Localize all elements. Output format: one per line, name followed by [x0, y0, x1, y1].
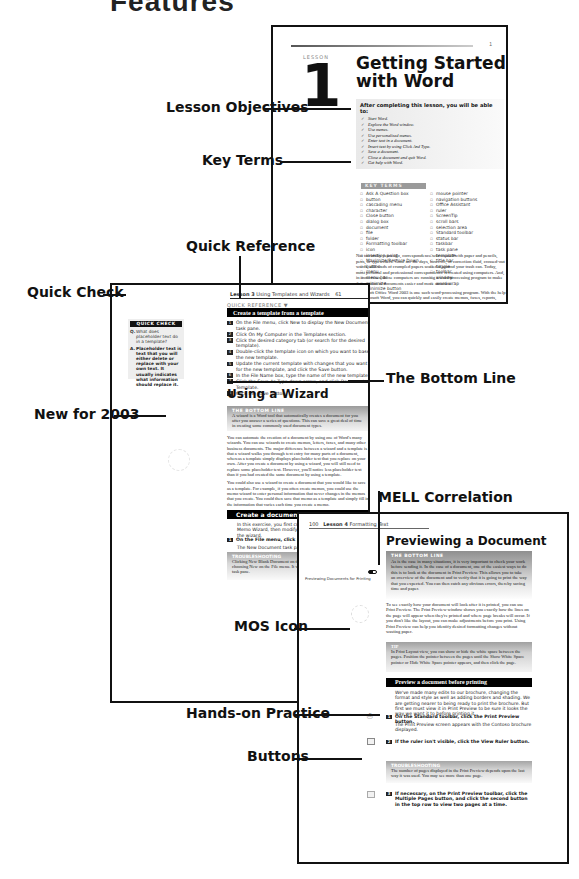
practice-intro: We've made many edits to our brochure, c… — [395, 690, 532, 716]
step-number-badge: 3 — [227, 338, 233, 343]
header-rule — [291, 45, 473, 47]
new-for-2003-icon — [168, 449, 190, 471]
quick-reference-step: 2Click On My Computer in the Templates s… — [227, 332, 370, 338]
callout-mos-icon: MOS Icon — [234, 618, 308, 634]
quick-reference-step: 4Double-click the template icon on which… — [227, 349, 370, 360]
header-rule — [230, 298, 368, 299]
view-ruler-button-icon — [367, 738, 375, 745]
sample-page-previewing-document: 100 Lesson 4 Formatting Text Previewing … — [297, 512, 569, 864]
practice-step-result: The Print Preview screen appears with th… — [395, 722, 532, 733]
leader-line — [264, 108, 351, 110]
leader-line — [280, 161, 351, 163]
bottom-line-text: As is the case in many situations, it is… — [391, 559, 527, 591]
step-number-badge: 2 — [386, 740, 392, 745]
leader-line — [378, 491, 380, 565]
callout-mell-correlation: MELL Correlation — [378, 489, 513, 505]
bottom-line-text: A wizard is a Word tool that automatical… — [232, 413, 365, 429]
body-paragraph: Not too many years ago, correspondence w… — [356, 253, 506, 287]
callout-key-terms: Key Terms — [202, 152, 283, 168]
running-head-lesson: Lesson 4 — [323, 521, 348, 527]
step-number-badge: 1 — [227, 538, 233, 543]
troubleshooting-box: TROUBLESHOOTING The number of pages disp… — [386, 761, 532, 783]
mell-correlation-icon — [368, 570, 377, 574]
callout-hands-on-practice: Hands-on Practice — [186, 705, 330, 721]
quick-reference-title: Create a template from a template — [227, 308, 370, 317]
leader-line — [103, 294, 126, 296]
quick-check-question: Q.What does placeholder text do in a tem… — [130, 329, 182, 345]
lesson-objectives-box: After completing this lesson, you will b… — [356, 99, 504, 169]
callout-quick-reference: Quick Reference — [186, 238, 315, 254]
running-head: 100 Lesson 4 Formatting Text — [309, 521, 389, 527]
step-number-badge: 3 — [386, 792, 392, 797]
body-paragraph: You could also use a wizard to create a … — [227, 480, 370, 506]
section-heading: Previewing a Document — [386, 534, 547, 548]
quick-reference-steps: 1On the File menu, click New to display … — [227, 320, 370, 397]
bottom-line-heading: THE BOTTOM LINE — [391, 553, 527, 558]
objectives-heading: After completing this lesson, you will b… — [360, 102, 500, 114]
bottom-line-box: THE BOTTOM LINE As is the case in many s… — [386, 551, 532, 599]
quick-check-answer: A.Placeholder text is text that you will… — [130, 346, 182, 388]
quick-check-box: QUICK CHECK Q.What does placeholder text… — [128, 319, 184, 379]
objectives-list: Start Word. Explore the Word window. Use… — [360, 116, 500, 166]
quick-reference-step: 6In the File Name box, type the name of … — [227, 373, 370, 379]
sample-page-lesson-opener: 1 LESSON 1 Getting Started with Word Aft… — [271, 25, 508, 304]
mos-icon — [351, 605, 369, 623]
callout-quick-check: Quick Check — [27, 284, 124, 300]
lesson-title-line-2: with Word — [356, 73, 506, 91]
step-number-badge: 6 — [227, 373, 233, 378]
step-number-badge: 2 — [227, 332, 233, 337]
leader-line — [294, 758, 362, 760]
lesson-title: Getting Started with Word — [356, 55, 506, 91]
header-rule — [309, 528, 429, 529]
body-paragraph: Microsoft Office Word 2003 is one such w… — [356, 290, 506, 304]
running-head-title: Formatting Text — [349, 521, 388, 527]
callout-buttons: Buttons — [247, 748, 309, 764]
leader-line — [348, 380, 384, 382]
quick-check-heading: QUICK CHECK — [130, 321, 182, 327]
page-number: 61 — [335, 291, 341, 297]
callout-new-for-2003: New for 2003 — [34, 406, 139, 422]
step-number-badge: 1 — [227, 321, 233, 326]
step-number-badge: 4 — [227, 350, 233, 355]
leader-line — [114, 415, 166, 417]
section-body: You can automate the creation of a docum… — [227, 435, 370, 510]
page-number: 100 — [309, 521, 319, 527]
quick-reference-step: 5Update the current template with change… — [227, 361, 370, 372]
troubleshooting-text: The number of pages displayed in the Pri… — [391, 768, 527, 778]
section-heading: Using a Wizard — [227, 387, 329, 401]
lesson-intro-body: Not too many years ago, correspondence w… — [356, 253, 506, 304]
tip-text: In Print Layout view, you can show or hi… — [391, 649, 527, 665]
leader-line — [295, 714, 380, 716]
quick-reference-step: 1On the File menu, click New to display … — [227, 320, 370, 331]
page-number: 1 — [489, 41, 492, 47]
key-terms-heading: KEY TERMS — [361, 183, 426, 189]
leader-line — [239, 256, 241, 298]
leader-line — [294, 628, 350, 630]
practice-step: 3If necessary, on the Print Preview tool… — [386, 791, 532, 807]
running-head-lesson: Lesson 3 — [230, 291, 255, 297]
callout-lesson-objectives: Lesson Objectives — [166, 99, 309, 115]
multiple-pages-button-icon — [367, 791, 375, 798]
tip-box: TIP In Print Layout view, you can show o… — [386, 642, 532, 672]
quick-reference-step: 3Click the desired category tab (or sear… — [227, 338, 370, 349]
step-number-badge: 1 — [386, 715, 392, 720]
body-paragraph: You can automate the creation of a docum… — [227, 435, 370, 477]
callout-the-bottom-line: The Bottom Line — [386, 370, 516, 386]
practice-title-bar: Preview a document before printing — [386, 678, 532, 687]
objective-item: Get help with Word. — [360, 160, 500, 166]
practice-step: 2If the ruler isn't visible, click the V… — [386, 739, 532, 744]
mell-correlation-label: Previewing Documents for Printing — [305, 576, 371, 581]
running-head-title: Using Templates and Wizards — [256, 291, 329, 297]
step-number-badge: 5 — [227, 362, 233, 367]
page-title-fragment: Features — [110, 0, 235, 18]
section-body: To see exactly how your document will lo… — [386, 602, 532, 634]
bottom-line-box: THE BOTTOM LINE A wizard is a Word tool … — [227, 406, 370, 431]
running-head: Lesson 3 Using Templates and Wizards 61 — [230, 291, 342, 297]
